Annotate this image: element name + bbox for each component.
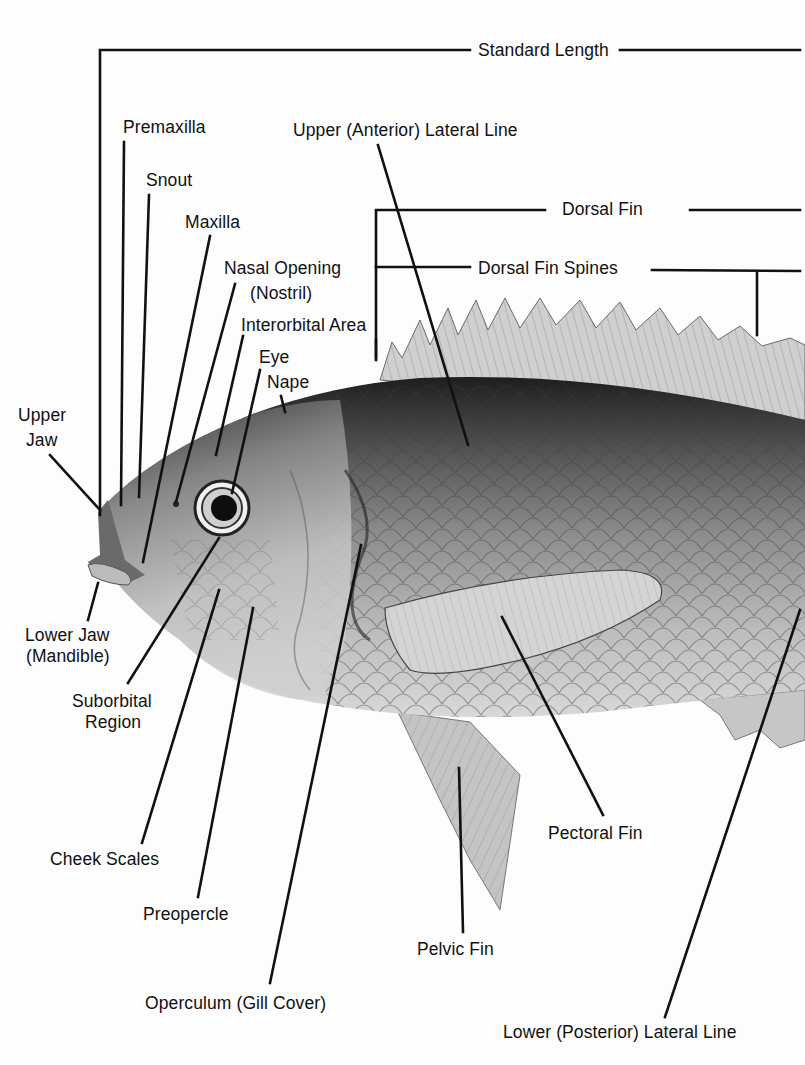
label-cheek-scales: Cheek Scales xyxy=(50,848,159,870)
label-lower-jaw-line2: (Mandible) xyxy=(26,645,110,667)
label-operculum: Operculum (Gill Cover) xyxy=(145,992,326,1014)
label-suborbital-line2: Region xyxy=(85,711,141,733)
label-standard-length: Standard Length xyxy=(474,39,613,61)
label-maxilla: Maxilla xyxy=(185,211,240,233)
label-interorbital-area: Interorbital Area xyxy=(241,314,366,336)
label-suborbital-line1: Suborbital xyxy=(72,690,152,712)
label-eye: Eye xyxy=(259,346,289,368)
label-premaxilla: Premaxilla xyxy=(123,116,206,138)
label-upper-anterior-lateral-line: Upper (Anterior) Lateral Line xyxy=(293,119,518,141)
fish-illustration xyxy=(0,0,805,1065)
label-lower-jaw-line1: Lower Jaw xyxy=(25,624,110,646)
label-upper-jaw-line1: Upper xyxy=(18,404,66,426)
label-lower-posterior-lateral-line: Lower (Posterior) Lateral Line xyxy=(503,1021,737,1043)
label-preopercle: Preopercle xyxy=(143,903,229,925)
label-dorsal-fin: Dorsal Fin xyxy=(558,198,647,220)
label-nostril: (Nostril) xyxy=(250,282,312,304)
label-upper-jaw-line2: Jaw xyxy=(26,429,57,451)
label-snout: Snout xyxy=(146,169,192,191)
label-nape: Nape xyxy=(267,371,309,393)
fish-anatomy-diagram: Standard Length Premaxilla Upper (Anteri… xyxy=(0,0,805,1065)
label-pectoral-fin: Pectoral Fin xyxy=(548,822,643,844)
label-pelvic-fin: Pelvic Fin xyxy=(417,938,494,960)
label-nasal-opening: Nasal Opening xyxy=(224,257,341,279)
label-dorsal-fin-spines: Dorsal Fin Spines xyxy=(474,257,622,279)
